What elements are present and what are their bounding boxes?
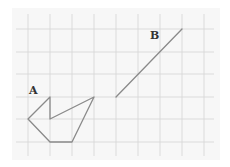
label-a: A (29, 85, 38, 96)
label-b: B (150, 30, 159, 41)
